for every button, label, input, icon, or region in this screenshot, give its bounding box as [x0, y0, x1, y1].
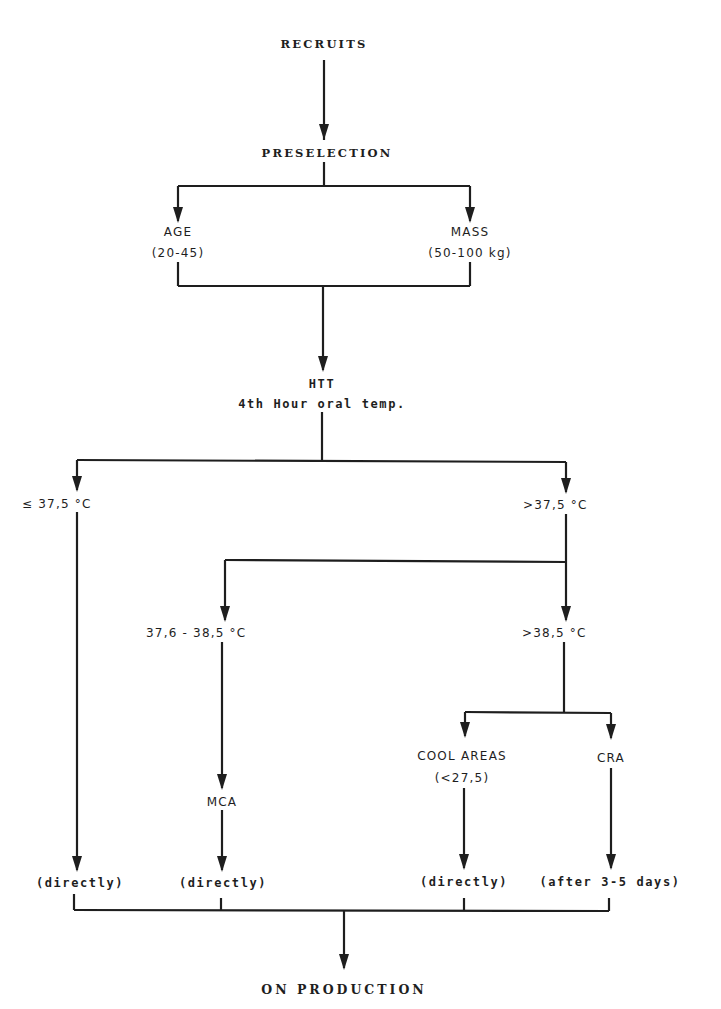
node-le-37-5: ≤ 37,5 °C: [22, 494, 92, 514]
node-mass: MASS: [451, 222, 490, 242]
node-gt-37-5: >37,5 °C: [523, 495, 588, 515]
node-37-6-38-5: 37,6 - 38,5 °C: [146, 623, 246, 643]
node-preselection: PRESELECTION: [262, 143, 393, 163]
node-mass-range: (50-100 kg): [428, 243, 511, 263]
node-mca: MCA: [207, 792, 238, 812]
node-cool-areas-sub: (<27,5): [435, 768, 490, 788]
node-recruits: RECRUITS: [281, 34, 368, 54]
node-cool-areas: COOL AREAS: [417, 746, 507, 766]
node-age-range: (20-45): [152, 243, 205, 263]
node-after-days: (after 3-5 days): [539, 872, 680, 892]
node-gt-38-5: >38,5 °C: [522, 623, 587, 643]
node-directly-mca: (directly): [179, 873, 267, 893]
node-directly-cool: (directly): [420, 872, 508, 892]
flowchart: RECRUITS PRESELECTION AGE (20-45) MASS (…: [0, 0, 721, 1009]
node-age: AGE: [164, 222, 192, 242]
node-htt-sub: 4th Hour oral temp.: [238, 394, 406, 414]
node-directly-left: (directly): [36, 873, 124, 893]
node-cra: CRA: [597, 748, 625, 768]
node-on-production: ON PRODUCTION: [261, 980, 427, 1000]
node-htt: HTT: [309, 374, 335, 394]
